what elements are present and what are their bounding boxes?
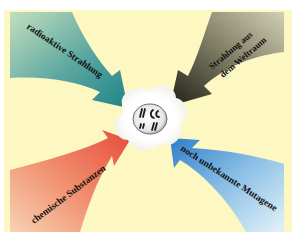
cell-nucleus	[133, 104, 167, 134]
diagram-stage: radioaktive Strahlung Strahlung aus dem …	[0, 0, 295, 234]
arrow-chemical-substances: chemische Substanzen	[10, 130, 130, 232]
mutagen-diagram: radioaktive Strahlung Strahlung aus dem …	[0, 0, 295, 234]
arrow-radioactive-radiation: radioaktive Strahlung	[10, 12, 128, 108]
arrow-unknown-mutagens: noch unbekannte Mutagene	[170, 138, 284, 232]
arrow-cosmic-radiation: Strahlung aus dem Weltraum	[170, 12, 284, 106]
